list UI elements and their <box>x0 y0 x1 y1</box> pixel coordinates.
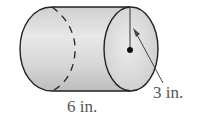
length-label: 6 in. <box>67 97 97 116</box>
center-dot <box>127 47 133 53</box>
cylinder-diagram: 3 in. 6 in. <box>0 0 199 121</box>
cylinder-figure: 3 in. 6 in. <box>0 0 199 121</box>
radius-label: 3 in. <box>153 83 183 102</box>
